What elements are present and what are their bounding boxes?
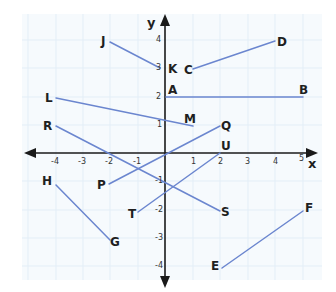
point-label-f: F xyxy=(305,202,313,214)
point-label-q: Q xyxy=(221,120,231,132)
y-tick: 4 xyxy=(156,36,161,44)
y-tick: -1 xyxy=(155,177,163,185)
y-tick: 2 xyxy=(156,93,161,101)
x-tick: -2 xyxy=(105,158,113,166)
y-tick: -2 xyxy=(155,206,163,214)
point-label-s: S xyxy=(221,206,230,218)
y-axis-down-arrow-icon xyxy=(160,276,170,288)
point-label-a: A xyxy=(168,84,177,96)
point-label-u: U xyxy=(221,140,231,152)
point-label-g: G xyxy=(110,236,120,248)
y-axis-label: y xyxy=(147,16,155,29)
point-label-h: H xyxy=(42,175,52,187)
x-tick: -3 xyxy=(78,158,86,166)
grid-background xyxy=(22,14,322,280)
y-tick: -3 xyxy=(155,234,163,242)
x-axis-label: x xyxy=(308,157,316,170)
point-label-m: M xyxy=(184,113,196,125)
point-label-k: K xyxy=(168,63,177,75)
point-label-d: D xyxy=(277,36,287,48)
point-label-c: C xyxy=(184,64,193,76)
point-label-l: L xyxy=(45,92,53,104)
x-tick: 1 xyxy=(191,158,196,166)
y-tick: 1 xyxy=(157,121,162,129)
point-label-r: R xyxy=(43,120,52,132)
x-tick: -4 xyxy=(51,158,59,166)
point-label-b: B xyxy=(299,84,308,96)
x-tick: 2 xyxy=(218,158,223,166)
x-tick: 3 xyxy=(245,158,250,166)
point-label-e: E xyxy=(211,260,219,272)
x-tick: 5 xyxy=(299,155,304,163)
x-tick: -1 xyxy=(133,158,141,166)
x-tick: 4 xyxy=(273,158,278,166)
y-tick: -4 xyxy=(155,262,163,270)
point-label-p: P xyxy=(97,179,106,191)
point-label-t: T xyxy=(128,208,136,220)
y-tick: 3 xyxy=(156,64,161,72)
point-label-j: J xyxy=(101,35,105,47)
